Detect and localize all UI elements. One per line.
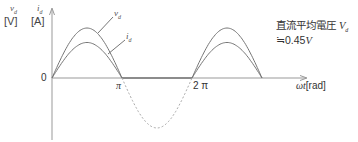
y-axis-current-var: id (37, 4, 43, 15)
current-curve-label: id (126, 32, 132, 43)
y-axis-voltage-unit: [V] (4, 16, 17, 27)
half-wave-rectifier-diagram: vd id [V] [A] vd id 0 π 2 π ωt[rad] 直流平均… (0, 0, 358, 142)
tick-pi: π (116, 81, 121, 91)
voltage-leader-line (98, 17, 113, 33)
y-axis-current-unit: [A] (31, 16, 44, 27)
voltage-curve-label: vd (114, 9, 121, 20)
blocked-negative-half-cycle (122, 78, 192, 128)
tick-2pi: 2 π (193, 81, 208, 91)
current-curve-half2 (192, 43, 262, 79)
x-axis-label: ωt[rad] (296, 81, 326, 91)
current-leader-line (108, 40, 125, 54)
voltage-curve-half2 (192, 28, 262, 78)
current-curve-half1 (52, 43, 122, 79)
voltage-curve-half1 (52, 28, 122, 78)
origin-label: 0 (41, 73, 47, 83)
dc-average-voltage-label: 直流平均電圧 Vd (276, 20, 348, 33)
dc-average-voltage-value: ≒0.45V (276, 35, 312, 47)
y-axis-voltage-var: vd (10, 4, 17, 15)
